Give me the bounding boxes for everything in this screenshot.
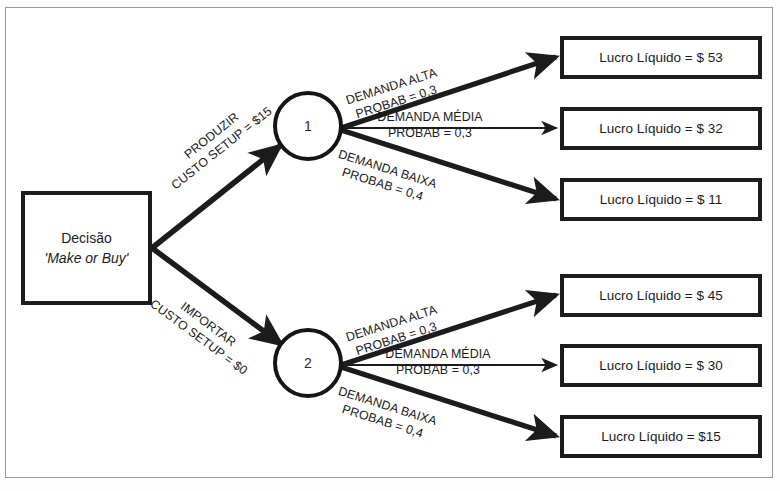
branch-label-bottom-media-line1: DEMANDA MÉDIA	[385, 346, 490, 362]
outcome-node-15-label: Lucro Líquido = $15	[601, 429, 721, 444]
branch-label-bottom-media-line2: PROBAB = 0,3	[385, 362, 490, 378]
decision-node-line1: Decisão	[61, 228, 112, 248]
branch-label-top-media-line1: DEMANDA MÉDIA	[377, 109, 482, 125]
chance-node-1[interactable]: 1	[273, 91, 343, 161]
branch-label-top-media-line2: PROBAB = 0,3	[377, 125, 482, 141]
outcome-node-30-label: Lucro Líquido = $ 30	[599, 358, 722, 373]
branch-label-bottom-media: DEMANDA MÉDIA PROBAB = 0,3	[385, 346, 490, 379]
decision-node-line2: 'Make or Buy'	[45, 248, 129, 268]
outcome-node-15[interactable]: Lucro Líquido = $15	[560, 415, 762, 458]
outcome-node-53[interactable]: Lucro Líquido = $ 53	[560, 36, 762, 79]
chance-node-1-label: 1	[304, 118, 312, 134]
outcome-node-11-label: Lucro Líquido = $ 11	[600, 192, 722, 207]
outcome-node-53-label: Lucro Líquido = $ 53	[599, 50, 722, 65]
chance-node-2[interactable]: 2	[273, 328, 343, 398]
outcome-node-11[interactable]: Lucro Líquido = $ 11	[560, 178, 762, 221]
outcome-node-45[interactable]: Lucro Líquido = $ 45	[560, 274, 762, 317]
outcome-node-30[interactable]: Lucro Líquido = $ 30	[560, 344, 762, 387]
decision-node[interactable]: Decisão 'Make or Buy'	[21, 191, 152, 305]
branch-label-top-media: DEMANDA MÉDIA PROBAB = 0,3	[377, 109, 482, 142]
outcome-node-32[interactable]: Lucro Líquido = $ 32	[560, 107, 762, 150]
outcome-node-32-label: Lucro Líquido = $ 32	[599, 121, 722, 136]
chance-node-2-label: 2	[304, 355, 312, 371]
diagram-canvas: Decisão 'Make or Buy' 1 2 PRODUZIR CUSTO…	[0, 0, 780, 491]
outcome-node-45-label: Lucro Líquido = $ 45	[599, 288, 722, 303]
